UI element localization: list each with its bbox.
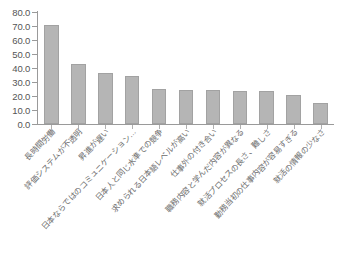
bar[interactable] (152, 89, 167, 124)
bar[interactable] (259, 91, 274, 124)
bar-column[interactable] (206, 12, 221, 124)
bar-column[interactable] (71, 12, 86, 124)
bar[interactable] (286, 95, 301, 124)
bar[interactable] (233, 91, 248, 124)
y-axis-label: 10.0 (0, 106, 30, 116)
y-axis-label: 30.0 (0, 78, 30, 88)
y-axis-label: 40.0 (0, 64, 30, 74)
bar-column[interactable] (98, 12, 113, 124)
bar-column[interactable] (44, 12, 59, 124)
bar-column[interactable] (179, 12, 194, 124)
bar-column[interactable] (286, 12, 301, 124)
bar-series (38, 12, 334, 124)
y-axis-label: 60.0 (0, 36, 30, 46)
bar-column[interactable] (152, 12, 167, 124)
bar-chart: 80.0 70.0 60.0 50.0 40.0 30.0 20.0 10.0 … (0, 0, 342, 266)
bar[interactable] (71, 64, 86, 124)
bar[interactable] (206, 90, 221, 124)
bar[interactable] (179, 90, 194, 124)
bar-column[interactable] (233, 12, 248, 124)
bar-column[interactable] (125, 12, 140, 124)
bar-column[interactable] (313, 12, 328, 124)
y-axis-label: 80.0 (0, 8, 30, 18)
bar-column[interactable] (259, 12, 274, 124)
bar[interactable] (313, 103, 328, 124)
y-axis-label: 50.0 (0, 50, 30, 60)
y-axis-label: 20.0 (0, 92, 30, 102)
y-axis-label: 70.0 (0, 22, 30, 32)
bar[interactable] (125, 76, 140, 124)
bar[interactable] (44, 25, 59, 124)
bar[interactable] (98, 73, 113, 124)
x-axis-labels: 長時間労働評価システムが不透明昇進が遅い日本ならではのコミュニケーション…日本人… (0, 128, 342, 266)
